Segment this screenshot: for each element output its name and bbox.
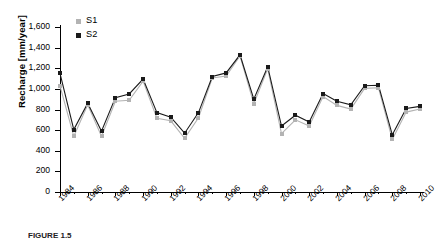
marker-s2 xyxy=(252,97,256,101)
legend-label-s1: S1 xyxy=(86,16,97,25)
marker-s2 xyxy=(390,133,394,137)
marker-s2 xyxy=(307,120,311,124)
legend-swatch-s2 xyxy=(76,33,81,38)
marker-s2 xyxy=(86,101,90,105)
marker-s1 xyxy=(293,118,297,122)
marker-s1 xyxy=(100,134,104,138)
marker-s2 xyxy=(363,84,367,88)
marker-s2 xyxy=(210,75,214,79)
marker-s1 xyxy=(127,98,131,102)
marker-s2 xyxy=(335,99,339,103)
marker-s1 xyxy=(307,124,311,128)
marker-s1 xyxy=(252,102,256,106)
marker-s1 xyxy=(335,103,339,107)
legend-item-s2: S2 xyxy=(76,28,97,42)
marker-s2 xyxy=(321,92,325,96)
marker-s1 xyxy=(72,134,76,138)
marker-s1 xyxy=(113,99,117,103)
marker-s2 xyxy=(100,129,104,133)
marker-s2 xyxy=(280,124,284,128)
marker-s2 xyxy=(376,83,380,87)
marker-s1 xyxy=(390,137,394,141)
marker-s2 xyxy=(404,106,408,110)
legend-label-s2: S2 xyxy=(86,30,97,39)
legend-swatch-s1 xyxy=(76,19,81,24)
marker-s2 xyxy=(72,128,76,132)
marker-s2 xyxy=(293,113,297,117)
marker-s1 xyxy=(404,110,408,114)
marker-s2 xyxy=(349,103,353,107)
marker-s2 xyxy=(155,111,159,115)
marker-s2 xyxy=(169,115,173,119)
marker-s2 xyxy=(224,71,228,75)
marker-s2 xyxy=(196,111,200,115)
legend: S1 S2 xyxy=(76,14,97,42)
marker-s2 xyxy=(183,131,187,135)
marker-s2 xyxy=(58,71,62,75)
marker-s1 xyxy=(280,132,284,136)
marker-s2 xyxy=(418,104,422,108)
marker-s2 xyxy=(113,96,117,100)
marker-s2 xyxy=(238,53,242,57)
marker-s2 xyxy=(266,65,270,69)
figure-caption: FIGURE 1.5 xyxy=(28,231,428,240)
marker-s1 xyxy=(349,107,353,111)
legend-item-s1: S1 xyxy=(76,14,97,28)
marker-s2 xyxy=(141,77,145,81)
marker-s1 xyxy=(58,84,62,88)
marker-s2 xyxy=(127,92,131,96)
marker-s1 xyxy=(183,136,187,140)
marker-s1 xyxy=(196,116,200,120)
marker-s1 xyxy=(155,116,159,120)
marker-s1 xyxy=(169,119,173,123)
